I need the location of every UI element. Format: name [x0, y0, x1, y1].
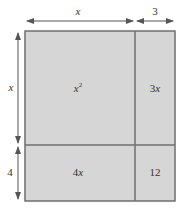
cell-3x: 3x: [150, 82, 161, 94]
cell-12: 12: [150, 166, 161, 178]
cell-3x-var: x: [154, 82, 160, 94]
top-3-label: 3: [152, 5, 158, 17]
left-4-label: 4: [7, 166, 13, 178]
left-x-label: x: [8, 81, 14, 93]
cell-4x-var: x: [77, 166, 83, 178]
cell-x-squared-exponent: 2: [79, 81, 83, 89]
top-x-label: x: [75, 5, 81, 17]
cell-4x: 4x: [73, 166, 84, 178]
area-model-diagram: x 3 x 4 x2 3x 4x 12: [0, 0, 181, 211]
